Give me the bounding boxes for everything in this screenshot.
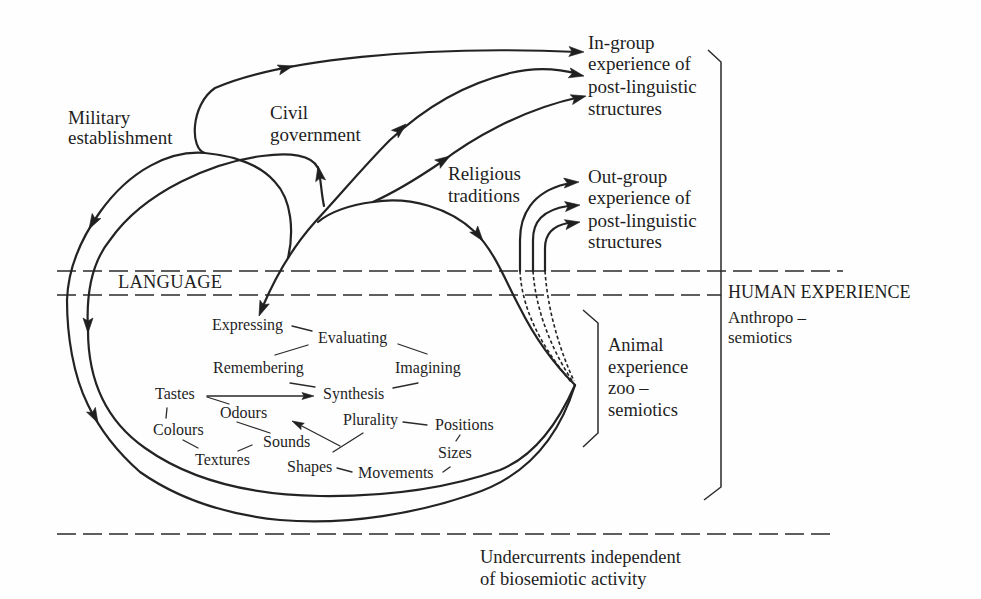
label-undercurrents-line2: of biosemiotic activity bbox=[480, 569, 647, 589]
label-military-line1: Military bbox=[68, 107, 131, 128]
out-group-dotted-3 bbox=[545, 271, 574, 381]
label-animal-line4: semiotics bbox=[608, 400, 678, 420]
connector-tastes-colours bbox=[166, 408, 167, 418]
connector-plurality-shapes bbox=[333, 433, 363, 452]
religious-lower-curve bbox=[373, 200, 575, 385]
label-in-group-line3: post-linguistic bbox=[588, 76, 697, 97]
node-textures: Textures bbox=[195, 451, 250, 468]
label-animal-line3: zoo – bbox=[608, 378, 649, 398]
label-out-group-line2: experience of bbox=[588, 187, 692, 208]
label-anthropo-semiotics: semiotics bbox=[728, 328, 792, 347]
connector-positions-sizes bbox=[456, 435, 460, 441]
arrow-head-icon bbox=[568, 68, 585, 81]
label-in-group-line4: structures bbox=[588, 98, 662, 119]
node-expressing: Expressing bbox=[212, 316, 283, 334]
label-anthropo: Anthropo – bbox=[728, 308, 806, 327]
connector-plurality-positions bbox=[403, 422, 427, 425]
label-religious-line1: Religious bbox=[448, 163, 521, 184]
arrow-head-icon bbox=[87, 407, 103, 425]
outcome-labels: In-group experience of post-linguistic s… bbox=[588, 32, 697, 252]
band-dividers bbox=[57, 271, 843, 534]
label-human-experience: HUMAN EXPERIENCE bbox=[728, 282, 911, 302]
label-animal-line2: experience bbox=[608, 357, 688, 377]
node-evaluating: Evaluating bbox=[318, 329, 387, 347]
node-tastes: Tastes bbox=[155, 385, 195, 402]
out-group-line-1 bbox=[520, 184, 566, 271]
connector-evaluating-remembering bbox=[275, 345, 308, 355]
connector-synthesis-imagining bbox=[393, 383, 418, 388]
semiotics-diagram: Military establishment Civil government … bbox=[0, 0, 981, 599]
label-out-group-line4: structures bbox=[588, 231, 662, 252]
node-movements: Movements bbox=[358, 464, 434, 481]
connector-odours-sounds bbox=[237, 422, 270, 433]
human-experience-bracket bbox=[704, 50, 721, 500]
node-colours: Colours bbox=[153, 421, 204, 438]
out-group-line-3 bbox=[545, 223, 568, 271]
connector-tastes-odours bbox=[207, 397, 229, 404]
connector-remembering-synthesis bbox=[290, 383, 315, 387]
node-positions: Positions bbox=[435, 416, 494, 433]
label-civil-line1: Civil bbox=[270, 102, 308, 123]
label-out-group-line1: Out-group bbox=[588, 166, 667, 187]
node-sounds: Sounds bbox=[263, 433, 310, 450]
connector-colours-textures bbox=[183, 440, 198, 448]
cognitive-nodes: Expressing Evaluating Remembering Imagin… bbox=[212, 316, 461, 403]
label-animal-line1: Animal bbox=[608, 335, 664, 355]
connector-evaluating-imagining bbox=[398, 344, 427, 354]
arrow-head-icon bbox=[277, 61, 294, 75]
node-sizes: Sizes bbox=[438, 444, 472, 461]
node-remembering: Remembering bbox=[213, 359, 304, 377]
arrow-head-icon bbox=[290, 418, 304, 430]
arrow-head-icon bbox=[564, 177, 580, 188]
out-group-line-2 bbox=[533, 206, 568, 271]
label-military-line2: establishment bbox=[68, 127, 173, 148]
connector-shapes-movements bbox=[337, 468, 352, 472]
label-out-group-line3: post-linguistic bbox=[588, 210, 697, 231]
diagram-canvas: Military establishment Civil government … bbox=[0, 0, 981, 599]
out-group-dotted-1 bbox=[520, 271, 572, 383]
label-civil-line2: government bbox=[270, 124, 361, 145]
arrow-head-icon bbox=[85, 214, 101, 232]
label-undercurrents-line1: Undercurrents independent bbox=[480, 547, 682, 567]
node-synthesis: Synthesis bbox=[323, 385, 384, 403]
node-plurality: Plurality bbox=[343, 411, 398, 429]
label-language: LANGUAGE bbox=[118, 272, 222, 292]
connector-movements-sizes bbox=[443, 467, 450, 472]
connector-expressing-evaluating bbox=[292, 326, 312, 331]
religious-branch-curve bbox=[318, 202, 373, 222]
arrowheads bbox=[83, 46, 587, 429]
animal-experience-bracket bbox=[583, 310, 598, 447]
node-shapes: Shapes bbox=[287, 458, 332, 476]
node-odours: Odours bbox=[220, 404, 267, 421]
label-in-group-line1: In-group bbox=[588, 32, 654, 53]
label-in-group-line2: experience of bbox=[588, 53, 692, 74]
node-imagining: Imagining bbox=[395, 359, 461, 377]
label-religious-line2: traditions bbox=[448, 185, 520, 206]
